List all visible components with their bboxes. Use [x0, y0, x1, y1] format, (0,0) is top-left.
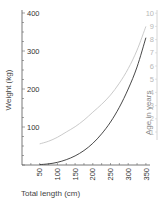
- right-axis-title: Age in years: [144, 91, 153, 135]
- bottom-tick-label: 300: [124, 168, 133, 181]
- bottom-axis-title: Total length (cm): [21, 189, 80, 198]
- bottom-tick-label: 200: [88, 168, 97, 181]
- left-tick-label: 200: [27, 85, 40, 94]
- bottom-tick-label: 100: [53, 168, 62, 181]
- left-axis-title: Weight (kg): [4, 69, 13, 110]
- left-tick-label: 300: [27, 47, 40, 56]
- left-tick-label: 100: [27, 123, 40, 132]
- right-tick-label: 10: [146, 9, 154, 18]
- right-tick-label: 7: [150, 48, 154, 57]
- bottom-tick-label: 50: [35, 168, 44, 176]
- right-tick-label: 5: [150, 75, 154, 84]
- weight-curve: [40, 38, 146, 165]
- bottom-tick-label: 150: [71, 168, 80, 181]
- right-tick-label: 8: [150, 35, 154, 44]
- bottom-tick-label: 350: [142, 168, 151, 181]
- bottom-tick-label: 250: [106, 168, 115, 181]
- left-axis-ticks: 100200300400: [22, 9, 40, 165]
- left-tick-label: 400: [27, 9, 40, 18]
- right-tick-label: 6: [150, 62, 154, 71]
- right-tick-label: 9: [150, 22, 154, 31]
- chart: 12345678910 100200300400 501001502002503…: [0, 0, 167, 207]
- bottom-axis-ticks: 50100150200250300350: [31, 163, 151, 181]
